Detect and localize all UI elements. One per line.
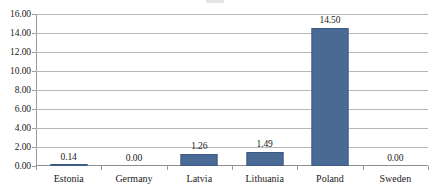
x-tick-label: Lithuania	[232, 172, 297, 185]
y-tick-label: 12.00	[0, 47, 31, 57]
bar-group: 0.00	[363, 14, 428, 166]
bar[interactable]	[311, 28, 348, 166]
x-tick-mark	[232, 166, 233, 170]
bar[interactable]	[246, 152, 283, 166]
bar-value-label: 0.14	[61, 152, 77, 162]
bar-group: 0.00	[101, 14, 166, 166]
x-tick-mark	[36, 166, 37, 170]
x-tick-mark	[297, 166, 298, 170]
x-axis-ticks	[36, 166, 428, 171]
bar-group: 0.14	[36, 14, 101, 166]
x-tick-label: Estonia	[36, 172, 101, 185]
plot-area: 0.140.001.261.4914.500.00	[36, 14, 428, 166]
cropped-title-artifact	[206, 0, 224, 3]
bar-value-label: 1.26	[191, 141, 207, 151]
bar[interactable]	[181, 154, 218, 166]
y-tick-label: 10.00	[0, 66, 31, 76]
bar-chart: 0.002.004.006.008.0010.0012.0014.0016.00…	[0, 0, 432, 187]
bar-group: 1.49	[232, 14, 297, 166]
x-tick-mark	[428, 166, 429, 170]
y-tick-label: 6.00	[0, 104, 31, 114]
y-tick-label: 8.00	[0, 85, 31, 95]
x-tick-mark	[167, 166, 168, 170]
bar-value-label: 1.49	[257, 139, 273, 149]
y-tick-label: 0.00	[0, 161, 31, 171]
y-tick-label: 4.00	[0, 123, 31, 133]
bar-value-label: 0.00	[126, 153, 142, 163]
bar-group: 1.26	[167, 14, 232, 166]
y-tick-label: 16.00	[0, 9, 31, 19]
bar-group: 14.50	[297, 14, 362, 166]
y-axis: 0.002.004.006.008.0010.0012.0014.0016.00	[0, 14, 31, 166]
bar-value-label: 14.50	[320, 15, 341, 25]
x-tick-mark	[101, 166, 102, 170]
y-tick-label: 2.00	[0, 142, 31, 152]
y-tick-label: 14.00	[0, 28, 31, 38]
x-tick-label: Latvia	[167, 172, 232, 185]
x-tick-label: Sweden	[363, 172, 428, 185]
x-tick-mark	[363, 166, 364, 170]
x-tick-label: Germany	[101, 172, 166, 185]
bar-value-label: 0.00	[387, 153, 403, 163]
x-tick-label: Poland	[297, 172, 362, 185]
x-axis-labels: EstoniaGermanyLatviaLithuaniaPolandSwede…	[36, 172, 428, 187]
bars-layer: 0.140.001.261.4914.500.00	[36, 14, 428, 166]
